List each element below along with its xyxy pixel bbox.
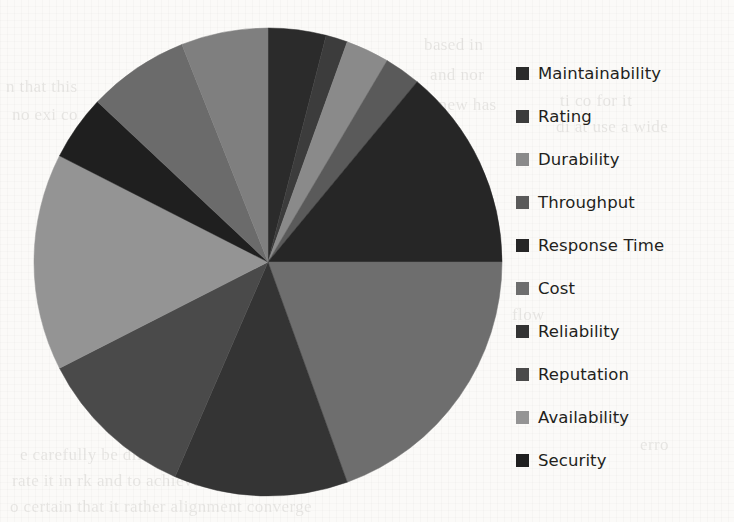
legend-swatch-icon (516, 153, 529, 166)
legend-item-label: Availability (538, 408, 629, 427)
legend-item-label: Cost (538, 279, 575, 298)
legend-swatch-icon (516, 454, 529, 467)
pie-slice-group (34, 28, 502, 496)
chart-legend: MaintainabilityRatingDurabilityThroughpu… (516, 52, 728, 482)
legend-item-label: Maintainability (538, 64, 661, 83)
legend-swatch-icon (516, 67, 529, 80)
legend-item[interactable]: Maintainability (516, 52, 728, 95)
legend-item[interactable]: Availability (516, 396, 728, 439)
legend-item[interactable]: Throughput (516, 181, 728, 224)
legend-swatch-icon (516, 325, 529, 338)
legend-item[interactable]: Cost (516, 267, 728, 310)
pie-chart-figure: MaintainabilityRatingDurabilityThroughpu… (0, 0, 734, 522)
legend-item[interactable]: Rating (516, 95, 728, 138)
legend-item-label: Security (538, 451, 607, 470)
legend-item-label: Durability (538, 150, 620, 169)
legend-item[interactable]: Reliability (516, 310, 728, 353)
pie-svg (32, 24, 504, 500)
legend-item-label: Throughput (538, 193, 635, 212)
legend-swatch-icon (516, 411, 529, 424)
legend-item-label: Rating (538, 107, 592, 126)
legend-swatch-icon (516, 196, 529, 209)
legend-item[interactable]: Security (516, 439, 728, 482)
legend-item-label: Response Time (538, 236, 664, 255)
legend-swatch-icon (516, 368, 529, 381)
pie-chart-plot-area (32, 24, 504, 500)
legend-swatch-icon (516, 110, 529, 123)
legend-item[interactable]: Reputation (516, 353, 728, 396)
legend-item[interactable]: Response Time (516, 224, 728, 267)
legend-swatch-icon (516, 239, 529, 252)
legend-item-label: Reputation (538, 365, 629, 384)
legend-swatch-icon (516, 282, 529, 295)
legend-item-label: Reliability (538, 322, 620, 341)
legend-item[interactable]: Durability (516, 138, 728, 181)
